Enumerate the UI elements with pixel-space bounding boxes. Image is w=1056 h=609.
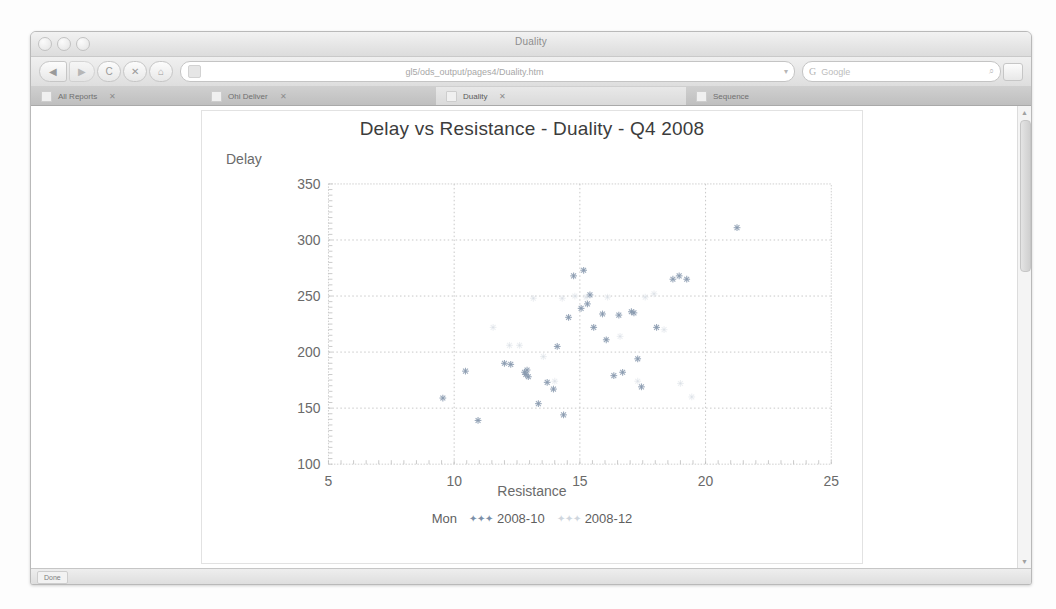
legend-label: 2008-12 — [585, 511, 633, 526]
data-point — [634, 378, 641, 385]
legend-item-0: ✦✦✦ 2008-10 — [469, 511, 545, 526]
y-axis-tick: 250 — [297, 288, 320, 304]
data-point — [580, 267, 587, 274]
search-placeholder: Google — [821, 67, 984, 77]
chart-legend: Mon ✦✦✦ 2008-10 ✦✦✦ 2008-12 — [202, 511, 862, 526]
data-point — [490, 324, 497, 331]
reload-button[interactable]: C — [97, 61, 121, 82]
data-point — [677, 380, 684, 387]
data-point — [571, 293, 578, 300]
y-axis-label: Delay — [226, 151, 262, 167]
tab-favicon-icon — [211, 91, 222, 102]
data-point — [734, 224, 741, 231]
tab-strip: All Reports ✕ Ohi Deliver ✕ Duality ✕ Se… — [31, 87, 1031, 106]
data-point — [554, 343, 561, 350]
data-point — [634, 355, 641, 362]
data-point — [530, 295, 537, 302]
data-point — [688, 394, 695, 401]
tab-label: Sequence — [713, 92, 749, 101]
data-point — [524, 367, 531, 374]
y-axis-tick: 200 — [297, 344, 320, 360]
scrollbar-thumb[interactable] — [1020, 120, 1031, 272]
back-button[interactable]: ◀ — [39, 61, 67, 82]
data-point — [604, 294, 611, 301]
tab-favicon-icon — [41, 91, 52, 102]
window-titlebar: Duality — [31, 32, 1031, 57]
stop-button[interactable]: ✕ — [123, 61, 147, 82]
scatter-plot: 100150200250300350510152025 — [276, 176, 782, 458]
data-point — [661, 326, 668, 333]
tab-all-reports[interactable]: All Reports ✕ — [31, 87, 201, 105]
data-point — [651, 290, 658, 297]
data-point — [570, 272, 577, 279]
toolbar-customize-icon[interactable] — [1003, 63, 1023, 81]
window-title: Duality — [31, 36, 1031, 47]
legend-title: Mon — [432, 511, 457, 526]
google-icon: G — [809, 66, 816, 77]
status-text: Done — [37, 571, 68, 584]
data-point — [544, 379, 551, 386]
tab-favicon-icon — [696, 91, 707, 102]
search-input[interactable]: G Google ⌕ — [802, 61, 1001, 82]
tab-label: Ohi Deliver — [228, 92, 268, 101]
data-point — [475, 417, 482, 424]
data-point — [670, 276, 677, 283]
data-point — [584, 301, 591, 308]
chart-title: Delay vs Resistance - Duality - Q4 2008 — [202, 118, 862, 140]
data-point — [439, 395, 446, 402]
data-point — [535, 400, 542, 407]
search-icon: ⌕ — [989, 66, 994, 77]
tab-sequence[interactable]: Sequence — [686, 87, 1031, 105]
home-button[interactable]: ⌂ — [149, 61, 173, 82]
data-point — [583, 294, 590, 301]
browser-toolbar: ◀ ▶ C ✕ ⌂ gl5/ods_output/pages4/Duality.… — [31, 57, 1031, 87]
tab-favicon-icon — [446, 91, 457, 102]
data-point — [599, 311, 606, 318]
data-point — [578, 305, 585, 312]
chart-container: Delay vs Resistance - Duality - Q4 2008 … — [201, 110, 863, 564]
data-point — [615, 312, 622, 319]
data-point — [617, 333, 624, 340]
scroll-up-icon[interactable]: ▲ — [1020, 108, 1029, 117]
data-point — [590, 324, 597, 331]
data-point — [516, 342, 523, 349]
page-viewport: Delay vs Resistance - Duality - Q4 2008 … — [31, 106, 1031, 568]
tab-label: Duality — [463, 92, 487, 101]
data-point — [525, 373, 532, 380]
data-point — [507, 361, 514, 368]
data-point — [619, 369, 626, 376]
data-point — [676, 272, 683, 279]
data-point — [603, 336, 610, 343]
data-point — [610, 372, 617, 379]
y-axis-tick: 100 — [297, 456, 320, 472]
data-point — [560, 411, 567, 418]
y-axis-tick: 350 — [297, 176, 320, 192]
close-icon[interactable]: ✕ — [109, 92, 116, 101]
address-bar[interactable]: gl5/ods_output/pages4/Duality.htm ▾ — [180, 61, 795, 82]
data-point — [540, 353, 547, 360]
tab-label: All Reports — [58, 92, 97, 101]
chevron-down-icon[interactable]: ▾ — [784, 67, 788, 76]
data-point — [683, 276, 690, 283]
forward-button[interactable]: ▶ — [69, 61, 95, 82]
data-point — [462, 368, 469, 375]
navigation-buttons: ◀ ▶ C ✕ ⌂ — [39, 61, 173, 82]
x-axis-label: Resistance — [202, 483, 862, 499]
star-marker-icon: ✦✦✦ — [557, 514, 581, 524]
tab-ohi-deliver[interactable]: Ohi Deliver ✕ — [201, 87, 436, 105]
data-point — [559, 295, 566, 302]
browser-window: Duality ◀ ▶ C ✕ ⌂ gl5/ods_output/pages4/… — [30, 31, 1032, 585]
url-text: gl5/ods_output/pages4/Duality.htm — [181, 67, 768, 77]
tab-duality[interactable]: Duality ✕ — [436, 87, 686, 105]
y-axis-tick: 300 — [297, 232, 320, 248]
status-bar: Done — [31, 568, 1031, 585]
close-icon[interactable]: ✕ — [280, 92, 287, 101]
legend-item-1: ✦✦✦ 2008-12 — [557, 511, 633, 526]
data-point — [550, 386, 557, 393]
page-scrollbar[interactable]: ▲ ▼ — [1017, 106, 1031, 568]
data-point — [653, 324, 660, 331]
y-axis-tick: 150 — [297, 400, 320, 416]
close-icon[interactable]: ✕ — [499, 92, 506, 101]
scroll-down-icon[interactable]: ▼ — [1020, 557, 1029, 566]
toolbar-overflow[interactable] — [1001, 63, 1023, 81]
